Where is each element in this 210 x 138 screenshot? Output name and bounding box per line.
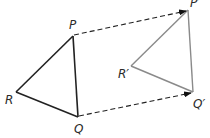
label-r: R xyxy=(5,93,13,107)
side-rq xyxy=(16,92,78,117)
side-pr xyxy=(16,36,73,92)
label-q-prime: Q′ xyxy=(193,97,205,111)
translation-diagram: P Q R P′ Q′ R′ xyxy=(0,0,210,138)
arrow-q-to-q-prime xyxy=(79,93,191,116)
arrow-p-to-p-prime xyxy=(74,11,186,35)
side-pr-prime xyxy=(131,10,188,66)
triangle-pqr-prime xyxy=(131,10,193,92)
side-pq xyxy=(73,36,78,117)
label-r-prime: R′ xyxy=(118,67,129,81)
translation-arrows xyxy=(74,11,191,116)
side-pq-prime xyxy=(188,10,193,92)
label-q: Q xyxy=(74,122,83,136)
triangle-pqr xyxy=(16,36,78,117)
label-p-prime: P′ xyxy=(190,0,200,10)
label-p: P xyxy=(69,18,77,32)
side-rq-prime xyxy=(131,66,193,92)
